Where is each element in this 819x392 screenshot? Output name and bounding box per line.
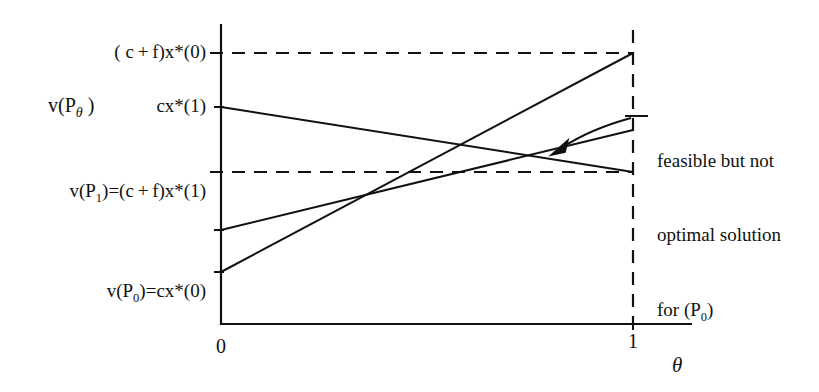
annotation-line-3-suffix: )	[707, 299, 713, 320]
y-tick-label-vp0-tail: )=cx*(0)	[139, 280, 206, 301]
y-tick-label-vp0-prefix: v(P	[107, 280, 133, 301]
annotation-line-2: optimal solution	[657, 223, 817, 248]
y-tick-label-vp1: v(P1)=(c + f)x*(1)	[26, 161, 206, 225]
y-tick-label-cf-x0: ( c + f)x*(0)	[40, 42, 206, 62]
y-tick-label-vp1-tail: )=(c + f)x*(1)	[102, 180, 206, 201]
x-tick-label-0: 0	[207, 336, 235, 357]
annotation-arrow-head	[551, 140, 568, 155]
annotation-text-block: feasible but not optimal solution for (P…	[657, 100, 817, 374]
series-line-feasible-not-optimal	[221, 130, 633, 230]
annotation-line-1: feasible but not	[657, 149, 817, 174]
annotation-line-3: for (P0)	[657, 298, 817, 325]
annotation-line-3-prefix: for (P	[657, 299, 701, 320]
figure-root: v(Pθ ) ( c + f)x*(0) cx*(1) v(P1)=(c + f…	[0, 0, 819, 392]
y-tick-label-vp1-prefix: v(P	[69, 180, 95, 201]
y-tick-label-cx1: cx*(1)	[40, 96, 206, 116]
y-tick-label-vp0: v(P0)=cx*(0)	[26, 261, 206, 325]
x-tick-label-1: 1	[619, 331, 647, 352]
